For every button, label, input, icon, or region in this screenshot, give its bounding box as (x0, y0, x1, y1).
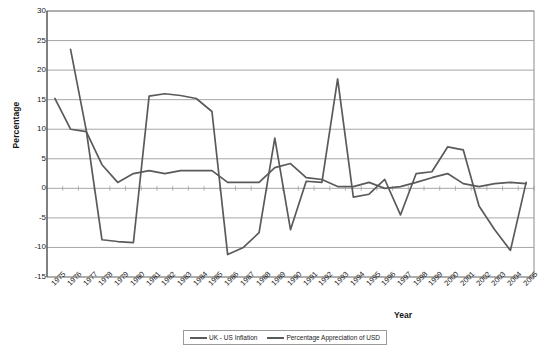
chart-container: Percentage 302520151050-5-10-15 19751976… (0, 0, 549, 360)
legend-item[interactable]: UK - US Inflation (190, 334, 257, 341)
legend-line-swatch (267, 337, 284, 339)
y-tick-label: 10 (24, 125, 46, 133)
legend-item[interactable]: Percentage Appreciation of USD (267, 334, 380, 341)
y-tick-labels: 302520151050-5-10-15 (22, 0, 46, 300)
y-tick-label: 30 (24, 7, 46, 15)
y-tick-label: 15 (24, 96, 46, 104)
legend-line-swatch (190, 337, 207, 339)
legend-item-label: UK - US Inflation (209, 334, 257, 341)
y-tick-label: 0 (24, 184, 46, 192)
x-axis-title: Year (394, 310, 412, 320)
y-tick-label: 25 (24, 37, 46, 45)
y-tick-label: -10 (24, 243, 46, 251)
y-tick-label: 5 (24, 155, 46, 163)
y-axis-title: Percentage (11, 85, 21, 165)
legend-item-label: Percentage Appreciation of USD (286, 334, 380, 341)
y-tick-label: -15 (24, 273, 46, 281)
y-tick-label: 20 (24, 66, 46, 74)
plot-area (0, 0, 549, 360)
chart-legend: UK - US InflationPercentage Appreciation… (183, 330, 387, 345)
y-tick-label: -5 (24, 214, 46, 222)
